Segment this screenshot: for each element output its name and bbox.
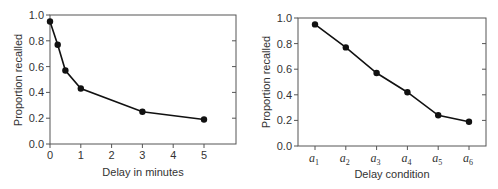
- data-point: [312, 21, 318, 27]
- y-tick-label: 0.2: [29, 112, 44, 124]
- left-x-tick-labels: 0 1 2 3 4 5: [47, 149, 207, 161]
- x-tick-label: a6: [463, 151, 473, 167]
- data-point: [62, 67, 68, 73]
- left-y-ticks: [46, 15, 236, 144]
- x-tick-label: 2: [109, 149, 115, 161]
- right-x-ticks: [315, 146, 469, 150]
- left-x-ticks: [50, 144, 204, 148]
- y-tick-label: 0.4: [29, 86, 44, 98]
- data-point: [404, 89, 410, 95]
- y-tick-label: 1.0: [277, 12, 292, 24]
- left-y-axis-title: Proportion recalled: [12, 34, 24, 126]
- right-y-axis-title: Proportion recalled: [260, 36, 272, 128]
- right-series-line: [315, 24, 469, 121]
- data-point: [78, 85, 84, 91]
- left-y-tick-labels: 0.0 0.2 0.4 0.6 0.8 1.0: [29, 9, 44, 150]
- y-tick-label: 0.8: [29, 35, 44, 47]
- y-tick-label: 0.0: [29, 138, 44, 150]
- x-tick-label: a1: [309, 151, 319, 167]
- x-tick-label: 0: [47, 149, 53, 161]
- right-chart: 0.0 0.2 0.4 0.6 0.8 1.0 a1 a2 a3 a4 a5 a…: [260, 12, 486, 180]
- x-tick-label: 3: [139, 149, 145, 161]
- left-x-axis-title: Delay in minutes: [102, 166, 184, 178]
- y-tick-label: 0.4: [277, 89, 292, 101]
- y-tick-label: 0.8: [277, 38, 292, 50]
- left-series-markers: [47, 18, 207, 122]
- data-point: [373, 70, 379, 76]
- y-tick-label: 0.2: [277, 114, 292, 126]
- left-series-line: [50, 22, 204, 120]
- right-x-axis-title: Delay condition: [354, 168, 429, 180]
- right-y-tick-labels: 0.0 0.2 0.4 0.6 0.8 1.0: [277, 12, 292, 152]
- y-tick-label: 0.6: [29, 61, 44, 73]
- y-tick-label: 0.6: [277, 63, 292, 75]
- x-tick-label: 5: [201, 149, 207, 161]
- data-point: [139, 109, 145, 115]
- y-tick-label: 1.0: [29, 9, 44, 21]
- right-series-markers: [312, 21, 472, 125]
- x-tick-label: a4: [401, 151, 411, 167]
- x-tick-label: 1: [78, 149, 84, 161]
- data-point: [47, 18, 53, 24]
- x-tick-label: a2: [340, 151, 350, 167]
- right-x-tick-labels: a1 a2 a3 a4 a5 a6: [309, 151, 473, 167]
- y-tick-label: 0.0: [277, 140, 292, 152]
- data-point: [435, 112, 441, 118]
- x-tick-label: a3: [371, 151, 381, 167]
- left-chart: 0.0 0.2 0.4 0.6 0.8 1.0 0 1 2 3 4 5 Dela…: [12, 9, 236, 178]
- left-plot-frame: [50, 15, 236, 144]
- x-tick-label: 4: [170, 149, 176, 161]
- x-tick-label: a5: [432, 151, 442, 167]
- figure: 0.0 0.2 0.4 0.6 0.8 1.0 0 1 2 3 4 5 Dela…: [0, 0, 498, 189]
- data-point: [343, 44, 349, 50]
- data-point: [55, 42, 61, 48]
- data-point: [201, 116, 207, 122]
- data-point: [466, 119, 472, 125]
